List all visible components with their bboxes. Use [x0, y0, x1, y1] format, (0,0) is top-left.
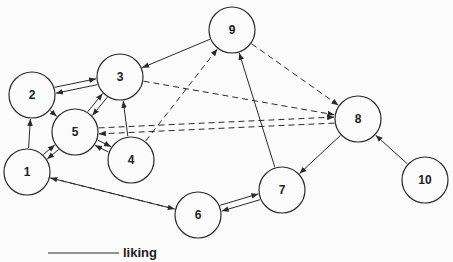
edge-9-to-3-solid: [142, 39, 210, 67]
node-label: 9: [229, 23, 236, 37]
edge-7-to-6-solid: [222, 200, 260, 211]
edge-5-to-1-solid: [47, 150, 58, 160]
node-label: 3: [117, 70, 124, 84]
node-1: 1: [4, 149, 50, 195]
legend: liking: [48, 245, 157, 260]
edge-3-to-5-solid: [92, 97, 107, 115]
node-label: 2: [29, 88, 36, 102]
edge-6-to-7-solid: [220, 194, 258, 205]
edge-9-to-8-dashed: [252, 44, 339, 105]
node-label: 6: [195, 208, 202, 222]
edge-8-to-5-dashed: [99, 123, 335, 134]
edge-1-to-5-solid: [43, 145, 54, 155]
node-8: 8: [335, 96, 381, 142]
node-4: 4: [108, 137, 154, 183]
node-10: 10: [402, 157, 448, 203]
node-9: 9: [209, 7, 255, 53]
edge-3-to-8-dashed: [144, 81, 335, 115]
node-7: 7: [259, 167, 305, 213]
node-label: 8: [355, 112, 362, 126]
node-label: 7: [279, 183, 286, 197]
sociogram-diagram: 12345678910 liking: [0, 0, 453, 262]
edge-8-to-7-solid: [300, 135, 341, 173]
legend-label-liking: liking: [123, 245, 157, 260]
node-6: 6: [175, 192, 221, 238]
edge-10-to-8-solid: [376, 135, 408, 164]
edge-7-to-9-solid: [239, 53, 275, 167]
graph-svg: 12345678910 liking: [0, 0, 453, 262]
node-label: 4: [128, 153, 135, 167]
edge-5-to-3-solid: [88, 94, 103, 112]
edge-5-to-4-solid: [98, 140, 112, 147]
node-label: 1: [24, 165, 31, 179]
edge-4-to-3-solid: [123, 101, 128, 136]
node-label: 10: [418, 173, 432, 187]
node-3: 3: [97, 54, 143, 100]
edge-2-to-5-solid: [50, 111, 57, 117]
edge-4-to-9-dashed: [146, 49, 218, 141]
edge-4-to-5-solid: [95, 145, 109, 152]
node-2: 2: [9, 72, 55, 118]
node-label: 5: [72, 125, 79, 139]
edge-1-to-2-solid: [29, 119, 31, 148]
edge-5-to-8-dashed: [99, 117, 335, 128]
node-5: 5: [52, 109, 98, 155]
